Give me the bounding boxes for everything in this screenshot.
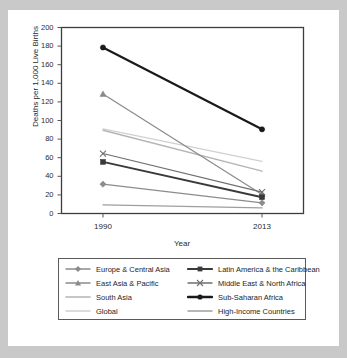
legend-swatch-europe-central-asia bbox=[65, 263, 91, 275]
legend-item-middle-east-north-africa[interactable]: Middle East & North Africa bbox=[181, 276, 307, 290]
data-point-marker bbox=[100, 45, 105, 50]
legend-item-latin-america-the-caribbean[interactable]: Latin America & the Caribbean bbox=[181, 262, 307, 276]
series-south-asia bbox=[103, 130, 262, 171]
series-global bbox=[103, 129, 262, 162]
x-axis-title: Year bbox=[61, 239, 303, 248]
legend-label: Global bbox=[96, 307, 118, 316]
chart-legend: Europe & Central AsiaLatin America & the… bbox=[58, 258, 306, 320]
series-high-income-countries bbox=[103, 205, 262, 208]
data-point-marker bbox=[260, 195, 265, 200]
legend-item-europe-central-asia[interactable]: Europe & Central Asia bbox=[59, 262, 181, 276]
data-point-marker bbox=[101, 159, 106, 164]
legend-swatch-latin-america-the-caribbean bbox=[187, 263, 213, 275]
legend-label: Latin America & the Caribbean bbox=[218, 265, 320, 274]
series-line bbox=[103, 154, 262, 193]
legend-marker-diamond-icon bbox=[75, 266, 81, 272]
legend-marker-circle-icon bbox=[197, 294, 202, 299]
x-tick-label: 2013 bbox=[242, 222, 282, 231]
legend-swatch-south-asia bbox=[65, 291, 91, 303]
data-point-marker bbox=[100, 91, 106, 96]
legend-grid: Europe & Central AsiaLatin America & the… bbox=[59, 262, 305, 318]
legend-marker-square-icon bbox=[198, 267, 203, 272]
data-point-marker bbox=[259, 200, 265, 206]
legend-swatch-high-income-countries bbox=[187, 305, 213, 317]
legend-item-south-asia[interactable]: South Asia bbox=[59, 290, 181, 304]
legend-label: East Asia & Pacific bbox=[96, 279, 159, 288]
x-tick-label: 1990 bbox=[83, 222, 123, 231]
series-line bbox=[103, 205, 262, 208]
series-line bbox=[103, 130, 262, 171]
legend-label: Middle East & North Africa bbox=[218, 279, 306, 288]
series-line bbox=[103, 184, 262, 203]
plot-frame bbox=[62, 28, 304, 214]
page-background: Deaths per 1,000 Live Births 02040608010… bbox=[0, 0, 347, 358]
chart-figure: Deaths per 1,000 Live Births 02040608010… bbox=[0, 0, 347, 358]
legend-item-global[interactable]: Global bbox=[59, 304, 181, 318]
legend-label: High-Income Countries bbox=[218, 307, 295, 316]
series-middle-east-north-africa bbox=[103, 154, 262, 193]
series-europe-central-asia bbox=[103, 184, 262, 203]
data-point-marker bbox=[100, 181, 106, 187]
legend-item-high-income-countries[interactable]: High-Income Countries bbox=[181, 304, 307, 318]
data-point-marker bbox=[259, 127, 264, 132]
legend-item-east-asia-pacific[interactable]: East Asia & Pacific bbox=[59, 276, 181, 290]
series-line bbox=[103, 47, 262, 129]
series-sub-saharan-africa bbox=[103, 47, 262, 129]
legend-label: Europe & Central Asia bbox=[96, 265, 170, 274]
legend-item-sub-saharan-africa[interactable]: Sub-Saharan Africa bbox=[181, 290, 307, 304]
legend-swatch-east-asia-pacific bbox=[65, 277, 91, 289]
legend-label: Sub-Saharan Africa bbox=[218, 293, 283, 302]
legend-swatch-global bbox=[65, 305, 91, 317]
legend-swatch-middle-east-north-africa bbox=[187, 277, 213, 289]
legend-label: South Asia bbox=[96, 293, 132, 302]
legend-swatch-sub-saharan-africa bbox=[187, 291, 213, 303]
series-line bbox=[103, 129, 262, 162]
